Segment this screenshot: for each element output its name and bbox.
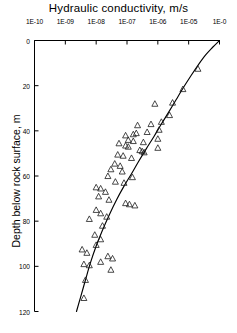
data-point-marker [148, 121, 154, 127]
data-point-marker [81, 261, 87, 267]
data-point-marker [140, 139, 146, 145]
data-point-marker [115, 152, 121, 158]
data-points [79, 66, 201, 301]
x-axis-ticks [35, 41, 220, 45]
data-point-marker [106, 197, 112, 203]
data-point-marker [105, 253, 111, 259]
y-tick-label: 100 [10, 263, 30, 270]
plot-area [0, 0, 237, 333]
data-point-marker [98, 259, 104, 265]
y-tick-label: 120 [10, 308, 30, 315]
data-point-marker [144, 129, 150, 135]
y-tick-label: 80 [10, 218, 30, 225]
y-tick-label: 20 [10, 82, 30, 89]
data-point-marker [105, 173, 111, 179]
data-point-marker [155, 136, 161, 142]
data-point-marker [86, 216, 92, 222]
hydraulic-conductivity-chart: Hydraulic conductivity, m/s 1E-101E-091E… [0, 0, 237, 333]
data-point-marker [117, 163, 123, 169]
data-point-marker [155, 145, 161, 151]
data-point-marker [108, 166, 114, 172]
fit-curve [76, 41, 219, 312]
data-point-marker [81, 295, 87, 301]
data-point-marker [96, 193, 102, 199]
data-point-marker [123, 132, 129, 138]
data-point-marker [79, 246, 85, 252]
data-point-marker [93, 207, 99, 213]
y-tick-label: 0 [10, 37, 30, 44]
data-point-marker [112, 161, 118, 167]
data-point-marker [92, 232, 98, 238]
data-point-marker [116, 140, 122, 146]
axis-lines [35, 41, 220, 312]
data-point-marker [129, 155, 135, 161]
data-point-marker [93, 184, 99, 190]
data-point-marker [156, 127, 162, 133]
data-point-marker [120, 153, 126, 159]
y-tick-label: 40 [10, 127, 30, 134]
data-point-marker [135, 122, 141, 128]
data-point-marker [108, 267, 114, 273]
data-point-marker [112, 179, 118, 185]
data-point-marker [119, 168, 125, 174]
data-point-marker [130, 138, 136, 144]
data-point-marker [152, 101, 158, 107]
y-axis-ticks [35, 41, 39, 312]
data-point-marker [132, 202, 138, 208]
y-tick-label: 60 [10, 173, 30, 180]
